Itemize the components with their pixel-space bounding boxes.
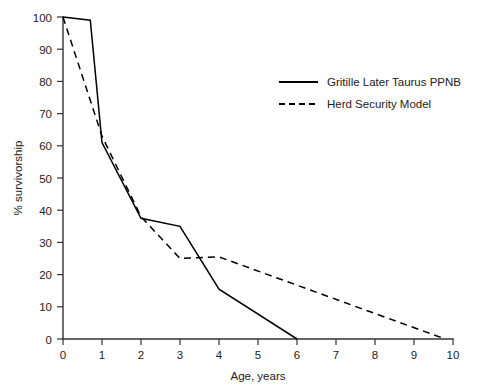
x-tick-label-3: 3: [177, 349, 183, 361]
chart-legend: Gritille Later Taurus PPNB Herd Security…: [279, 76, 461, 110]
y-tick-label-50: 50: [39, 173, 52, 185]
y-tick-label-10: 10: [39, 301, 52, 313]
y-tick-label-70: 70: [39, 108, 52, 120]
series-line-gritille-later-taurus-ppnb: [63, 17, 297, 339]
y-tick-label-0: 0: [46, 334, 52, 346]
y-tick-label-20: 20: [39, 269, 52, 281]
y-tick-label-60: 60: [39, 140, 52, 152]
x-tick-label-0: 0: [60, 349, 66, 361]
x-tick-label-9: 9: [411, 349, 417, 361]
chart-canvas: 100 90 80 70 60 50 40 30 20 10 0 0 1 2 3: [0, 0, 479, 389]
x-tick-label-4: 4: [216, 349, 223, 361]
y-tick-label-80: 80: [39, 76, 52, 88]
x-tick-label-8: 8: [372, 349, 378, 361]
y-tick-label-40: 40: [39, 205, 52, 217]
y-tick-label-30: 30: [39, 237, 52, 249]
y-tick-label-90: 90: [39, 44, 52, 56]
y-axis-title: % survivorship: [12, 141, 24, 216]
legend-label-1: Herd Security Model: [327, 98, 431, 110]
x-tick-label-10: 10: [447, 349, 460, 361]
x-axis-ticks: [63, 339, 453, 345]
y-tick-label-100: 100: [33, 12, 52, 24]
legend-label-0: Gritille Later Taurus PPNB: [327, 76, 461, 88]
x-tick-label-5: 5: [255, 349, 261, 361]
x-tick-label-1: 1: [99, 349, 105, 361]
x-tick-label-7: 7: [333, 349, 339, 361]
y-axis-ticks: [57, 17, 63, 339]
survivorship-chart-figure: 100 90 80 70 60 50 40 30 20 10 0 0 1 2 3: [0, 0, 479, 389]
x-tick-label-6: 6: [294, 349, 300, 361]
x-axis-title: Age, years: [231, 370, 286, 382]
x-tick-label-2: 2: [138, 349, 144, 361]
